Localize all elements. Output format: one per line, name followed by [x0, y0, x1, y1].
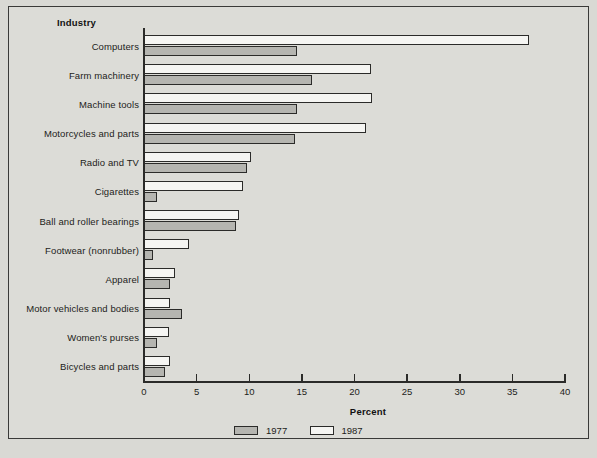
x-tick-10	[249, 374, 251, 381]
category-label-8: Apparel	[106, 273, 139, 284]
category-label-4: Radio and TV	[80, 157, 139, 168]
legend-item-1977: 1977	[234, 424, 287, 436]
plot-area: Industry 0510152025303540 ComputersFarm …	[0, 0, 597, 458]
x-tick-25	[406, 374, 408, 381]
x-tick-label-25: 25	[402, 386, 413, 397]
category-label-6: Ball and roller bearings	[39, 215, 139, 226]
bar-1977-10	[144, 338, 157, 348]
y-axis-title: Industry	[57, 17, 96, 28]
x-tick-30	[459, 374, 461, 381]
bar-1977-0	[144, 46, 297, 56]
bar-1987-9	[144, 298, 170, 308]
x-tick-35	[512, 374, 514, 381]
legend-item-1987: 1987	[310, 424, 363, 436]
bar-1977-3	[144, 134, 295, 144]
x-tick-label-0: 0	[141, 386, 146, 397]
x-tick-label-10: 10	[244, 386, 255, 397]
x-tick-label-15: 15	[297, 386, 308, 397]
bar-1987-6	[144, 210, 239, 220]
bar-1977-7	[144, 250, 153, 260]
x-tick-15	[301, 374, 303, 381]
bar-1987-10	[144, 327, 169, 337]
x-tick-label-20: 20	[349, 386, 360, 397]
x-tick-label-35: 35	[507, 386, 518, 397]
x-tick-label-30: 30	[454, 386, 465, 397]
x-tick-label-40: 40	[560, 386, 571, 397]
bar-1987-4	[144, 152, 251, 162]
bar-1977-11	[144, 367, 165, 377]
chart-legend: 1977 1987	[0, 424, 597, 436]
bar-1987-3	[144, 123, 366, 133]
x-tick-label-5: 5	[194, 386, 199, 397]
category-label-5: Cigarettes	[95, 186, 139, 197]
category-label-2: Machine tools	[79, 98, 139, 109]
gray-swatch-icon	[234, 426, 258, 435]
legend-label-1977: 1977	[266, 425, 287, 436]
chart-page: Industry 0510152025303540 ComputersFarm …	[0, 0, 597, 458]
bar-1987-0	[144, 35, 529, 45]
legend-label-1987: 1987	[341, 425, 362, 436]
bar-1977-6	[144, 221, 236, 231]
category-label-1: Farm machinery	[69, 69, 139, 80]
x-axis-title: Percent	[350, 406, 386, 417]
bar-1977-1	[144, 75, 312, 85]
bar-1987-1	[144, 64, 371, 74]
category-label-0: Computers	[92, 40, 139, 51]
bar-1977-2	[144, 104, 297, 114]
category-label-11: Bicycles and parts	[60, 361, 139, 372]
bar-1987-5	[144, 181, 243, 191]
category-label-9: Motor vehicles and bodies	[26, 303, 139, 314]
category-label-3: Motorcycles and parts	[44, 128, 139, 139]
bar-1977-9	[144, 309, 182, 319]
x-tick-40	[564, 374, 566, 381]
bar-1987-8	[144, 268, 175, 278]
bar-1987-11	[144, 356, 170, 366]
bar-1977-8	[144, 279, 170, 289]
bar-1987-7	[144, 239, 189, 249]
category-label-7: Footwear (nonrubber)	[45, 244, 139, 255]
category-label-10: Women's purses	[67, 332, 139, 343]
white-swatch-icon	[310, 426, 334, 435]
x-axis-line	[143, 381, 566, 383]
bar-1977-4	[144, 163, 247, 173]
x-tick-5	[196, 374, 198, 381]
bar-1987-2	[144, 93, 372, 103]
x-tick-20	[354, 374, 356, 381]
bar-1977-5	[144, 192, 157, 202]
